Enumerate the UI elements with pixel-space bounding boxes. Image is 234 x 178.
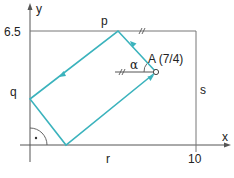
reflection-path (30, 31, 156, 145)
y-tick-6-5: 6.5 (4, 25, 21, 39)
right-angle-marker (30, 128, 47, 145)
x-axis (20, 143, 231, 148)
angle-alpha-arc (144, 64, 147, 73)
x-axis-label: x (222, 130, 228, 144)
point-A-label: A (7/4) (148, 52, 183, 66)
angle-alpha-label: α (130, 58, 138, 72)
rectangle-frame (30, 31, 196, 152)
x-tick-10: 10 (188, 152, 202, 166)
y-axis (28, 3, 33, 162)
y-axis-label: y (36, 2, 42, 16)
side-label-p: p (101, 14, 108, 28)
side-label-s: s (200, 83, 206, 97)
point-A (153, 69, 158, 74)
right-angle-dot-icon (35, 137, 37, 139)
y-axis-arrow-icon (28, 3, 33, 10)
side-label-r: r (106, 152, 110, 166)
side-label-q: q (10, 85, 17, 99)
reflection-diagram: y x 6.5 10 p q r s α A (7/4) (0, 0, 234, 178)
